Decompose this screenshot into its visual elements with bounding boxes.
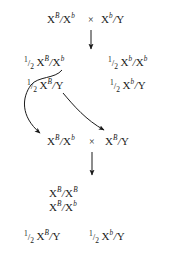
fraction-denominator: 2 (30, 236, 34, 245)
parental-cross-left-genotype: XB/Xb (47, 14, 75, 25)
allele-base-2: X (136, 56, 144, 68)
fraction-one-half: 1/2 (108, 57, 118, 68)
allele-superscript: B (113, 134, 118, 142)
allele-base-2: X (63, 135, 71, 147)
fraction-one-half: 1/2 (24, 57, 34, 68)
allele-base-2: X (53, 56, 61, 68)
allele-base: X (101, 13, 109, 25)
allele-base: X (102, 230, 110, 242)
allele-superscript: B (55, 12, 60, 20)
f1-row2-right: 1/2Xb/Y (110, 80, 146, 91)
allele-base-2: Y (121, 135, 129, 147)
allele-superscript: B (55, 134, 60, 142)
fraction-one-half: 1/2 (27, 80, 37, 91)
allele-base-2: X (63, 13, 71, 25)
allele-superscript: B (57, 200, 62, 208)
fraction-denominator: 2 (114, 62, 118, 71)
allele-superscript-2: b (73, 200, 77, 208)
arrow-f1-male-to-second-cross (63, 93, 104, 130)
allele-superscript-2: b (144, 55, 148, 63)
fraction-denominator: 2 (116, 85, 120, 94)
allele-superscript-2: b (71, 12, 75, 20)
allele-superscript: B (57, 186, 62, 194)
f2-females-line-1: XB/XB (49, 188, 78, 199)
f2-males-right: 1/2Xb/Y (89, 231, 125, 242)
f1-row1-left: 1/2XB/Xb (24, 57, 64, 68)
allele-base: X (49, 201, 57, 213)
arrow-layer (0, 0, 171, 257)
allele-base: X (121, 56, 129, 68)
allele-base-2: Y (116, 13, 124, 25)
allele-base: X (49, 187, 57, 199)
f2-females-line-2: XB/Xb (49, 202, 77, 213)
allele-superscript-2: b (61, 55, 65, 63)
fraction-one-half: 1/2 (24, 231, 34, 242)
parental-cross-right-genotype: Xb/Y (101, 14, 124, 25)
fraction-denominator: 2 (30, 62, 34, 71)
allele-base-2: Y (53, 230, 61, 242)
allele-base-2: Y (117, 230, 125, 242)
allele-base-2: Y (138, 79, 146, 91)
genetic-cross-diagram: XB/Xb × Xb/Y 1/2XB/Xb 1/2Xb/Xb 1/2XB/Y 1… (0, 0, 171, 257)
allele-base-2: X (65, 201, 73, 213)
allele-base-2: Y (56, 79, 64, 91)
allele-base: X (37, 230, 45, 242)
second-cross-symbol: × (89, 137, 95, 147)
f2-males-left: 1/2XB/Y (24, 231, 61, 242)
f2-males-left-genotype: XB/Y (37, 230, 61, 242)
f1-row2-left-genotype: XB/Y (40, 79, 64, 91)
parental-cross-symbol: × (88, 15, 94, 25)
allele-superscript-2: B (73, 186, 78, 194)
allele-base: X (105, 135, 113, 147)
fraction-denominator: 2 (95, 236, 99, 245)
allele-base: X (37, 56, 45, 68)
allele-base: X (47, 13, 55, 25)
fraction-denominator: 2 (33, 85, 37, 94)
f1-row1-right: 1/2Xb/Xb (108, 57, 148, 68)
second-cross-right-genotype: XB/Y (105, 136, 129, 147)
fraction-one-half: 1/2 (89, 231, 99, 242)
allele-base: X (40, 79, 48, 91)
second-cross-left-genotype: XB/Xb (47, 136, 75, 147)
f1-row2-left: 1/2XB/Y (27, 80, 64, 91)
f2-males-right-genotype: Xb/Y (102, 230, 125, 242)
f1-row2-right-genotype: Xb/Y (123, 79, 146, 91)
f1-row1-right-genotype: Xb/Xb (121, 56, 148, 68)
fraction-one-half: 1/2 (110, 80, 120, 91)
allele-base-2: X (65, 187, 73, 199)
f1-row1-left-genotype: XB/Xb (37, 56, 65, 68)
allele-base: X (123, 79, 131, 91)
allele-base: X (47, 135, 55, 147)
allele-superscript-2: b (71, 134, 75, 142)
